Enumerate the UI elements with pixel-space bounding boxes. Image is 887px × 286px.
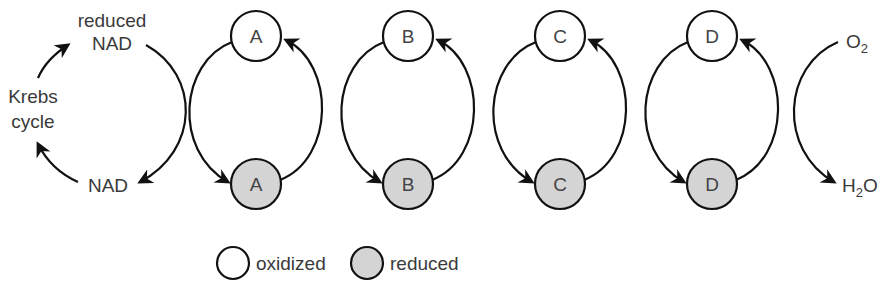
carrier-label: A bbox=[250, 26, 263, 47]
carrier-label: D bbox=[705, 174, 719, 195]
carrier-label: B bbox=[402, 174, 415, 195]
carrier-loops bbox=[189, 40, 778, 182]
krebs-arc-down bbox=[38, 144, 78, 182]
oxygen-label: O2 bbox=[846, 31, 868, 56]
reduced-nad-label-line1: reduced bbox=[78, 10, 147, 31]
krebs-arc-up bbox=[38, 45, 68, 78]
carrier-label: A bbox=[250, 174, 263, 195]
legend-oxidized-swatch bbox=[217, 247, 249, 279]
oxygen-arc bbox=[794, 42, 838, 182]
water-label: H2O bbox=[842, 175, 878, 200]
etc-diagram: A A B B C C D D reduced NAD NAD Krebs cy… bbox=[0, 0, 887, 286]
carrier-b: B B bbox=[383, 11, 433, 209]
nad-arc bbox=[140, 45, 186, 182]
carrier-a: A A bbox=[231, 11, 281, 209]
carrier-label: D bbox=[705, 26, 719, 47]
reduced-nad-label-line2: NAD bbox=[92, 33, 132, 54]
krebs-label-line1: Krebs bbox=[8, 86, 58, 107]
legend-reduced-label: reduced bbox=[390, 253, 459, 274]
legend-oxidized-label: oxidized bbox=[256, 253, 326, 274]
legend-reduced-swatch bbox=[351, 247, 383, 279]
legend: oxidized reduced bbox=[217, 247, 459, 279]
carrier-label: C bbox=[553, 174, 567, 195]
carrier-label: B bbox=[402, 26, 415, 47]
carrier-label: C bbox=[553, 26, 567, 47]
carrier-d: D D bbox=[687, 11, 737, 209]
carrier-c: C C bbox=[535, 11, 585, 209]
nad-label: NAD bbox=[88, 175, 128, 196]
krebs-label-line2: cycle bbox=[11, 111, 54, 132]
